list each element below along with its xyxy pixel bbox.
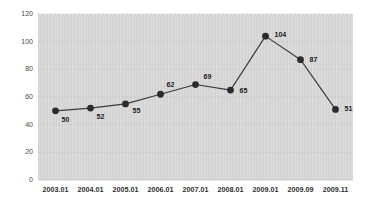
y-axis-tick-label: 60 (25, 93, 33, 100)
data-point-label: 104 (275, 31, 287, 38)
data-point-label: 52 (97, 113, 105, 120)
x-axis-tick-label: 2009.09 (288, 185, 314, 194)
data-point-marker (297, 56, 304, 63)
data-point-marker (332, 106, 339, 113)
x-axis-tick-label: 2009.01 (253, 185, 279, 194)
data-point-marker (52, 107, 59, 114)
data-point-label: 50 (62, 116, 70, 123)
y-axis-tick-label: 80 (25, 65, 33, 72)
y-axis-tick-label: 40 (25, 121, 33, 128)
x-axis-tick-label: 2005.01 (113, 185, 139, 194)
y-axis-tick-label: 20 (25, 148, 33, 155)
data-point-label: 55 (133, 107, 141, 114)
data-point-label: 51 (345, 105, 353, 112)
data-point-marker (192, 81, 199, 88)
chart-canvas: 020406080100120 2003.012004.012005.01200… (0, 0, 377, 205)
data-point-marker (122, 101, 129, 108)
data-point-marker (87, 105, 94, 112)
data-point-marker (262, 33, 269, 40)
y-axis-tick-label: 0 (29, 176, 33, 183)
x-axis-tick-label: 2004.01 (78, 185, 104, 194)
y-axis-tick-label: 120 (21, 10, 33, 17)
data-point-label: 65 (240, 87, 248, 94)
y-axis-tick-label: 100 (21, 38, 33, 45)
x-axis-tick-label: 2008.01 (218, 185, 244, 194)
data-point-label: 62 (167, 81, 175, 88)
x-axis-tick-label: 2003.01 (43, 185, 69, 194)
x-axis-tick-label: 2006.01 (148, 185, 174, 194)
x-axis-tick-label: 2009.11 (323, 185, 349, 194)
data-point-label: 69 (204, 73, 212, 80)
data-point-marker (227, 87, 234, 94)
x-axis-tick-label: 2007.01 (183, 185, 209, 194)
data-point-label: 87 (310, 56, 318, 63)
line-chart: 020406080100120 2003.012004.012005.01200… (0, 0, 377, 205)
data-point-marker (157, 91, 164, 98)
x-axis-tick-labels: 2003.012004.012005.012006.012007.012008.… (43, 185, 349, 194)
